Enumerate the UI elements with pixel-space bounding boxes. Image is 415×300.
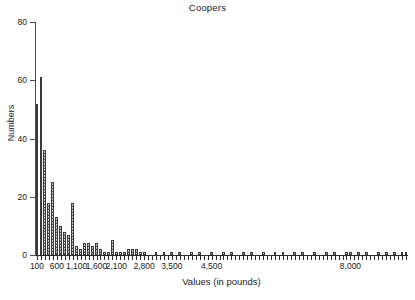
x-tick — [299, 256, 300, 260]
y-tick-label-80: 80 — [0, 18, 27, 27]
y-tick-label-20: 20 — [0, 193, 27, 202]
histogram-bar — [301, 252, 304, 255]
x-tick — [319, 256, 320, 260]
x-tick — [89, 256, 90, 260]
x-tick — [108, 256, 109, 260]
x-tick — [180, 256, 181, 260]
x-tick — [239, 256, 240, 260]
x-tick — [390, 256, 391, 260]
x-tick — [283, 256, 284, 260]
histogram-bar — [95, 243, 98, 255]
x-tick — [366, 256, 367, 260]
x-tick — [65, 256, 66, 260]
x-tick — [148, 256, 149, 260]
histogram-figure: Coopers Numbers Values (in pounds) 02040… — [0, 0, 415, 300]
x-tick-label-4500: 4,500 — [201, 262, 222, 271]
histogram-bar — [222, 252, 225, 255]
x-tick — [251, 256, 252, 260]
x-tick — [128, 256, 129, 260]
histogram-bar — [198, 252, 201, 255]
x-tick — [212, 256, 213, 260]
histogram-bar — [67, 235, 70, 255]
histogram-bar — [51, 182, 54, 255]
x-tick — [279, 256, 280, 260]
x-tick — [386, 256, 387, 260]
histogram-bar — [393, 252, 396, 255]
histogram-bar — [63, 232, 66, 255]
x-tick — [208, 256, 209, 260]
x-tick — [271, 256, 272, 260]
x-tick — [132, 256, 133, 260]
x-tick — [112, 256, 113, 260]
histogram-bar — [313, 252, 316, 255]
x-tick-label-3500: 3,500 — [161, 262, 182, 271]
x-tick — [97, 256, 98, 260]
x-tick-label-2100: 2,100 — [106, 262, 127, 271]
x-tick — [311, 256, 312, 260]
x-tick — [41, 256, 42, 260]
y-tick-label-60: 60 — [0, 76, 27, 85]
histogram-bar — [71, 203, 74, 255]
histogram-bar — [115, 252, 118, 255]
x-tick — [53, 256, 54, 260]
histogram-bar — [325, 252, 328, 255]
x-tick — [231, 256, 232, 260]
histogram-bar — [405, 252, 408, 255]
x-tick — [259, 256, 260, 260]
x-tick — [327, 256, 328, 260]
x-tick — [374, 256, 375, 260]
x-axis-title: Values (in pounds) — [35, 276, 408, 287]
histogram-bar — [139, 252, 142, 255]
x-tick — [247, 256, 248, 260]
x-tick — [382, 256, 383, 260]
x-tick-label-2800: 2,800 — [133, 262, 154, 271]
x-tick — [164, 256, 165, 260]
x-tick — [93, 256, 94, 260]
histogram-bar — [210, 252, 213, 255]
histogram-bar — [83, 243, 86, 255]
x-tick — [267, 256, 268, 260]
x-tick — [346, 256, 347, 260]
x-tick-label-1600: 1,600 — [86, 262, 107, 271]
x-tick — [295, 256, 296, 260]
x-tick — [104, 256, 105, 260]
x-tick — [124, 256, 125, 260]
x-tick — [188, 256, 189, 260]
x-tick — [227, 256, 228, 260]
histogram-bar — [274, 252, 277, 255]
x-tick-label-1100: 1,100 — [66, 262, 87, 271]
histogram-bar — [282, 252, 285, 255]
x-tick — [406, 256, 407, 260]
x-tick — [255, 256, 256, 260]
x-tick — [235, 256, 236, 260]
histogram-bar — [262, 252, 265, 255]
histogram-bar — [99, 249, 102, 255]
histogram-bar — [111, 240, 114, 255]
histogram-bar — [357, 252, 360, 255]
x-tick-label-100: 100 — [30, 262, 44, 271]
histogram-bar — [131, 249, 134, 255]
chart-title: Coopers — [0, 2, 415, 13]
x-tick — [168, 256, 169, 260]
x-tick — [343, 256, 344, 260]
x-tick — [350, 256, 351, 260]
x-tick — [243, 256, 244, 260]
histogram-bar — [91, 246, 94, 255]
x-tick — [184, 256, 185, 260]
x-tick — [394, 256, 395, 260]
x-axis-line — [35, 255, 408, 256]
x-tick — [275, 256, 276, 260]
x-tick — [358, 256, 359, 260]
x-tick — [307, 256, 308, 260]
histogram-bar — [401, 252, 404, 255]
x-tick — [362, 256, 363, 260]
x-tick — [378, 256, 379, 260]
histogram-bar — [155, 252, 158, 255]
histogram-bar — [178, 252, 181, 255]
histogram-bar — [349, 252, 352, 255]
x-tick-label-600: 600 — [50, 262, 64, 271]
x-tick — [116, 256, 117, 260]
histogram-bar — [333, 252, 336, 255]
x-tick — [331, 256, 332, 260]
histogram-bar — [242, 252, 245, 255]
